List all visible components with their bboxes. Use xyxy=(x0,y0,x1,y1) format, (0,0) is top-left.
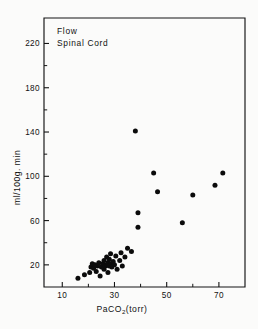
data-point xyxy=(98,273,103,278)
y-tick-label: 20 xyxy=(30,261,40,270)
panel-label-line1: Flow xyxy=(57,26,78,36)
x-axis-title-base: PaCO xyxy=(97,304,122,314)
data-point xyxy=(108,251,113,256)
data-point xyxy=(155,189,160,194)
y-tick-label: 60 xyxy=(30,217,40,226)
data-point xyxy=(125,246,130,251)
y-tick-label: 140 xyxy=(25,128,40,137)
y-axis-title: ml/100g. min xyxy=(12,150,22,205)
data-point xyxy=(94,269,99,274)
data-point xyxy=(119,250,124,255)
data-point xyxy=(129,249,134,254)
y-tick-label: 180 xyxy=(25,84,40,93)
data-point xyxy=(135,210,140,215)
data-point xyxy=(122,255,127,260)
x-tick-label: 70 xyxy=(214,291,224,300)
data-points-layer xyxy=(75,128,225,280)
plot-frame xyxy=(44,18,245,287)
data-point xyxy=(151,170,156,175)
data-point xyxy=(135,225,140,230)
x-tick-label: 50 xyxy=(162,291,172,300)
data-point xyxy=(117,258,122,263)
data-point xyxy=(180,220,185,225)
data-point xyxy=(112,262,117,267)
x-tick-label: 30 xyxy=(110,291,120,300)
x-axis-ticks: 10305070 xyxy=(57,282,224,300)
x-tick-label: 10 xyxy=(57,291,67,300)
data-point xyxy=(113,254,118,259)
y-tick-label: 220 xyxy=(25,39,40,48)
data-point xyxy=(120,263,125,268)
panel-label-line2: Spinal Cord xyxy=(57,38,108,48)
data-point xyxy=(87,270,92,275)
data-point xyxy=(75,276,80,281)
data-point xyxy=(115,267,120,272)
y-tick-label: 100 xyxy=(25,172,40,181)
x-axis-title: PaCO2(torr) xyxy=(97,304,148,315)
y-axis-ticks: 2060100140180220 xyxy=(25,39,49,269)
data-point xyxy=(133,128,138,133)
data-point xyxy=(212,183,217,188)
data-point xyxy=(82,272,87,277)
x-axis-title-units: (torr) xyxy=(126,304,148,314)
figure-panel: 2060100140180220 10305070 Flow Spinal Co… xyxy=(0,0,258,329)
scatter-plot: 2060100140180220 10305070 Flow Spinal Co… xyxy=(0,0,258,329)
data-point xyxy=(105,270,110,275)
data-point xyxy=(190,193,195,198)
data-point xyxy=(220,170,225,175)
